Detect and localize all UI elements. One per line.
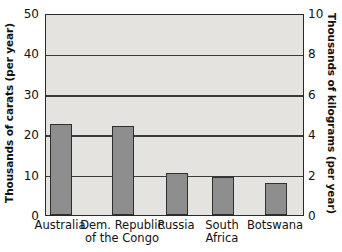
gridline — [46, 95, 303, 97]
y-tick-left: 10 — [7, 170, 39, 182]
y-axis-right-title: Thousands of kilograms (per year) — [326, 13, 338, 213]
y-tick-left: 20 — [7, 129, 39, 141]
bar — [212, 177, 234, 215]
bar — [265, 183, 287, 215]
plot-area — [45, 14, 304, 216]
y-axis-left-title: Thousands of carats (per year) — [3, 13, 15, 213]
y-tick-right: 8 — [308, 48, 340, 60]
category-label: Botswana — [230, 219, 320, 232]
y-tick-right: 4 — [308, 129, 340, 141]
y-tick-left: 30 — [7, 89, 39, 101]
bar — [112, 126, 134, 215]
gridline — [46, 55, 303, 57]
y-tick-right: 2 — [308, 170, 340, 182]
bar-chart-figure: Thousands of carats (per year) Thousands… — [0, 0, 342, 252]
bar — [50, 124, 72, 215]
y-tick-right: 6 — [308, 89, 340, 101]
y-tick-right: 10 — [308, 8, 340, 20]
y-tick-left: 50 — [7, 8, 39, 20]
bar — [166, 173, 188, 215]
gridline — [46, 135, 303, 137]
y-tick-left: 40 — [7, 48, 39, 60]
